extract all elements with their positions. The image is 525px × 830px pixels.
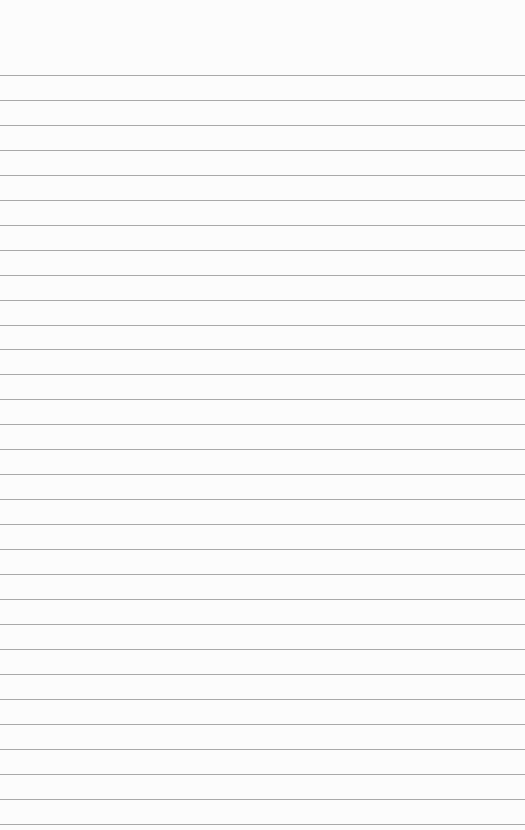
ruled-line [0,724,525,725]
ruled-line [0,549,525,550]
ruled-line [0,349,525,350]
ruled-line [0,374,525,375]
ruled-line [0,774,525,775]
ruled-line [0,674,525,675]
ruled-line [0,799,525,800]
ruled-line [0,574,525,575]
ruled-line [0,275,525,276]
ruled-line [0,399,525,400]
ruled-line [0,424,525,425]
ruled-line [0,824,525,825]
ruled-line [0,250,525,251]
ruled-line [0,474,525,475]
ruled-line [0,624,525,625]
ruled-line [0,150,525,151]
ruled-line [0,175,525,176]
ruled-line [0,125,525,126]
ruled-line [0,300,525,301]
ruled-line [0,200,525,201]
ruled-line [0,325,525,326]
ruled-line [0,599,525,600]
ruled-line [0,524,525,525]
ruled-line [0,499,525,500]
ruled-line [0,449,525,450]
ruled-line [0,225,525,226]
ruled-line [0,649,525,650]
lined-paper-sheet [0,0,525,830]
ruled-line [0,749,525,750]
ruled-line [0,75,525,76]
ruled-line [0,699,525,700]
ruled-line [0,100,525,101]
